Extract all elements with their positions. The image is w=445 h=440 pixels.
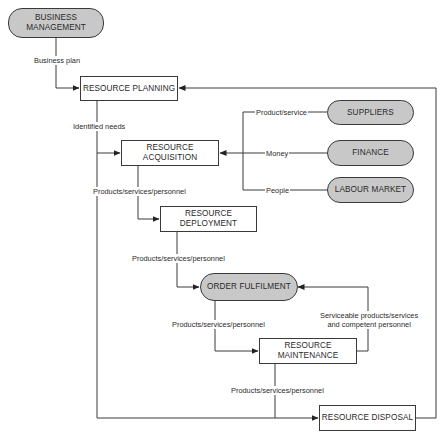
edge-label-identified-needs: Identified needs [72, 122, 126, 131]
node-label: RESOURCE [146, 143, 193, 152]
node-order-fulfilment: ORDER FULFILMENT [200, 273, 298, 301]
node-resource-deployment: RESOURCE DEPLOYMENT [160, 206, 257, 232]
node-resource-maintenance: RESOURCE MAINTENANCE [259, 338, 357, 364]
edge-label-maint-to-order: Serviceable products/services and compet… [319, 311, 419, 329]
node-label: LABOUR MARKET [335, 185, 406, 195]
edge-label-acq-to-deploy: Products/services/personnel [92, 187, 187, 196]
node-label: MAINTENANCE [278, 351, 339, 360]
node-label: RESOURCE [284, 341, 331, 350]
node-resource-planning: RESOURCE PLANNING [80, 76, 178, 101]
node-suppliers: SUPPLIERS [327, 100, 414, 125]
node-label: SUPPLIERS [347, 108, 394, 118]
node-label: BUSINESS [35, 13, 77, 22]
edge-label-deploy-to-order: Products/services/personnel [131, 254, 226, 263]
edge-label-product-service: Product/service [255, 108, 308, 117]
edge-label-maint-to-disposal: Products/services/personnel [230, 386, 325, 395]
node-label: ACQUISITION [143, 153, 197, 162]
node-label: MANAGEMENT [26, 23, 86, 32]
node-resource-disposal: RESOURCE DISPOSAL [319, 405, 416, 431]
node-label: ORDER FULFILMENT [207, 282, 291, 292]
edge-label-business-plan: Business plan [33, 56, 81, 65]
node-label: RESOURCE PLANNING [83, 84, 175, 94]
edge-label-line: Serviceable products/services [320, 311, 418, 320]
node-business-management: BUSINESS MANAGEMENT [8, 8, 104, 38]
node-label: FINANCE [352, 148, 389, 158]
edge-label-line: and competent personnel [327, 320, 410, 329]
edge-label-people: People [265, 186, 290, 195]
node-finance: FINANCE [327, 140, 414, 166]
node-labour-market: LABOUR MARKET [327, 177, 414, 203]
node-label: DEPLOYMENT [180, 219, 237, 228]
edge-disposal-to-planning [179, 88, 436, 418]
node-resource-acquisition: RESOURCE ACQUISITION [121, 140, 219, 166]
node-label: RESOURCE DISPOSAL [322, 413, 413, 423]
edge-label-order-to-maint: Products/services/personnel [171, 320, 266, 329]
edge-label-money: Money [265, 149, 289, 158]
node-label: RESOURCE [185, 209, 232, 218]
